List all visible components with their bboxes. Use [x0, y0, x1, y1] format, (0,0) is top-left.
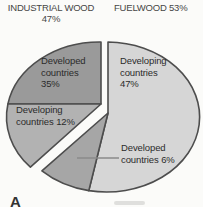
slice-label-line: Developed: [121, 142, 175, 154]
slice-label-line: countries: [120, 67, 167, 79]
slice-label-developing-12: Developing countries 12%: [16, 104, 75, 127]
slice-label-line: 35%: [41, 78, 86, 90]
slice-label-line: countries: [41, 67, 86, 79]
scan-artifact-smudge: [114, 201, 145, 205]
slice-label-line: countries 12%: [16, 116, 75, 128]
figure-letter-mark: A: [10, 194, 21, 207]
figure-container: INDUSTRIAL WOOD 47% FUELWOOD 53% Develop…: [0, 0, 203, 207]
group-header-industrial-wood-name: INDUSTRIAL WOOD: [4, 2, 98, 13]
slice-label-developing-47: Developing countries 47%: [120, 55, 167, 90]
group-header-fuelwood: FUELWOOD 53%: [114, 2, 187, 13]
slice-label-line: 47%: [120, 78, 167, 90]
slice-label-line: Developing: [16, 104, 75, 116]
group-header-industrial-wood: INDUSTRIAL WOOD 47%: [4, 2, 98, 24]
slice-label-line: countries 6%: [121, 154, 175, 166]
slice-label-developed-6: Developed countries 6%: [121, 142, 175, 165]
slice-label-developed-35: Developed countries 35%: [41, 55, 86, 90]
group-header-industrial-wood-pct: 47%: [4, 13, 98, 24]
slice-label-line: Developing: [120, 55, 167, 67]
slice-label-line: Developed: [41, 55, 86, 67]
